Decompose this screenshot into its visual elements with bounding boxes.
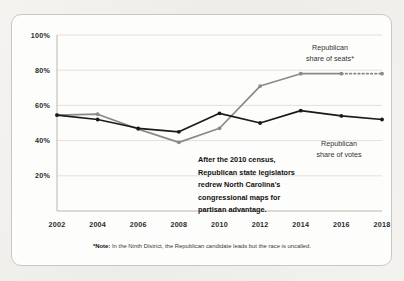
data-point xyxy=(177,130,181,134)
data-point xyxy=(136,126,140,130)
annotation-line: congressional maps for xyxy=(198,193,280,202)
annotation-line: partisan advantage. xyxy=(198,205,267,214)
data-point xyxy=(258,84,262,88)
data-point xyxy=(339,114,343,118)
chart-card: 20%40%60%80%100% 20022004200620082010201… xyxy=(11,14,392,266)
y-tick-label: 20% xyxy=(35,171,50,180)
data-point xyxy=(218,126,222,130)
x-tick-label: 2016 xyxy=(333,220,350,229)
x-tick-label: 2008 xyxy=(170,220,187,229)
x-tick-label: 2018 xyxy=(374,220,391,229)
data-point xyxy=(177,140,181,144)
x-axis-tick-labels: 200220042006200820102012201420162018 xyxy=(49,220,391,229)
legend-label-seats: Republican share of seats* xyxy=(306,43,354,63)
series-republican-share-of-seats xyxy=(55,72,384,144)
legend-label-votes: Republican share of votes xyxy=(316,139,362,159)
data-point xyxy=(380,118,384,122)
legend-votes-line2: share of votes xyxy=(316,150,362,159)
annotation-redistricting: After the 2010 census,Republican state l… xyxy=(198,155,295,214)
footnote-text: In the Ninth District, the Republican ca… xyxy=(110,243,311,249)
annotation-line: After the 2010 census, xyxy=(198,155,275,164)
y-tick-label: 60% xyxy=(35,101,50,110)
chart-figure: 20%40%60%80%100% 20022004200620082010201… xyxy=(12,15,393,267)
data-point xyxy=(218,111,222,115)
x-tick-label: 2012 xyxy=(252,220,269,229)
x-tick-label: 2006 xyxy=(130,220,147,229)
data-point xyxy=(299,109,303,113)
data-point xyxy=(299,72,303,76)
footnote: *Note: In the Ninth District, the Republ… xyxy=(93,243,311,249)
y-tick-label: 80% xyxy=(35,66,50,75)
data-point xyxy=(339,72,343,76)
data-point xyxy=(96,112,100,116)
y-tick-label: 40% xyxy=(35,136,50,145)
legend-votes-line1: Republican xyxy=(321,139,357,148)
x-tick-label: 2004 xyxy=(89,220,106,229)
data-point xyxy=(96,118,100,122)
series-line-solid xyxy=(57,74,341,143)
data-point xyxy=(380,72,384,76)
line-chart: 20%40%60%80%100% 20022004200620082010201… xyxy=(12,15,393,267)
data-point xyxy=(55,113,59,117)
legend-seats-line2: share of seats* xyxy=(306,54,354,63)
annotation-line: Republican state legislators xyxy=(198,168,295,177)
y-tick-label: 100% xyxy=(31,31,51,40)
x-tick-label: 2014 xyxy=(292,220,309,229)
data-point xyxy=(258,121,262,125)
x-tick-label: 2002 xyxy=(49,220,66,229)
y-axis-tick-labels: 20%40%60%80%100% xyxy=(31,31,51,181)
footnote-marker: *Note: xyxy=(93,243,110,249)
legend-seats-line1: Republican xyxy=(312,43,348,52)
annotation-line: redrew North Carolina's xyxy=(198,180,280,189)
x-tick-label: 2010 xyxy=(211,220,228,229)
